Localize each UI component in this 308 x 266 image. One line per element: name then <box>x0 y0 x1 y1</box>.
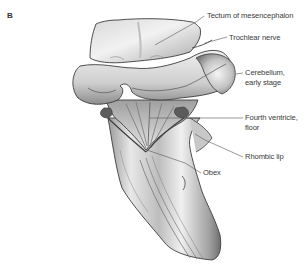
leader-cerebellum <box>236 73 243 74</box>
brainstem-diagram: B Tectum of mesencephalon Trochlear nerv… <box>0 0 308 266</box>
tectum <box>90 19 201 63</box>
label-cerebellum-line1: Cerebellum, <box>245 68 285 78</box>
label-tectum: Tectum of mesencephalon <box>207 11 293 21</box>
label-fourth-line1: Fourth ventricle, <box>245 113 298 123</box>
label-fourth-line2: floor <box>245 123 298 133</box>
label-cerebellum-line2: early stage <box>245 78 285 88</box>
panel-letter: B <box>7 11 13 20</box>
label-obex: Obex <box>203 168 221 178</box>
label-cerebellum: Cerebellum, early stage <box>245 68 285 87</box>
rhombic-lip-left <box>101 108 113 118</box>
label-rhombic-lip: Rhombic lip <box>245 152 284 162</box>
label-trochlear-nerve: Trochlear nerve <box>229 33 280 43</box>
leader-trochlear <box>205 37 227 43</box>
label-fourth-ventricle: Fourth ventricle, floor <box>245 113 298 132</box>
